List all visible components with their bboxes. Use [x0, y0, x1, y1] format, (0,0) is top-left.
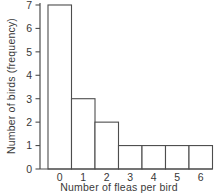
- y-tick-label: 0: [26, 163, 32, 175]
- y-tick-label: 1: [26, 139, 32, 151]
- bar: [48, 5, 72, 169]
- bar: [142, 146, 166, 169]
- y-axis-title: Number of birds (frequency): [5, 18, 17, 154]
- bar: [72, 99, 96, 169]
- bar: [166, 146, 190, 169]
- histogram-chart: 012345670123456 Number of birds (frequen…: [0, 0, 216, 196]
- y-tick-label: 6: [26, 22, 32, 34]
- y-tick-label: 4: [26, 69, 32, 81]
- y-tick-label: 5: [26, 46, 32, 58]
- bar: [95, 122, 119, 169]
- plot-area: 012345670123456: [0, 0, 216, 196]
- y-tick-label: 2: [26, 116, 32, 128]
- y-tick-label: 3: [26, 93, 32, 105]
- x-axis-title: Number of fleas per bird: [60, 181, 177, 193]
- y-tick-label: 7: [26, 0, 32, 11]
- bar: [119, 146, 143, 169]
- bar: [189, 146, 213, 169]
- x-tick-label: 6: [198, 171, 204, 183]
